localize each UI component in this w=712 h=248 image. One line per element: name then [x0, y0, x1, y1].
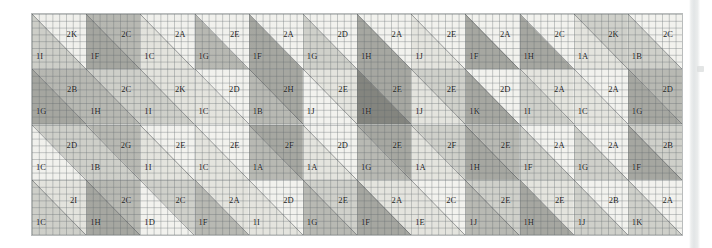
quilt-cell: 2A1C — [574, 69, 628, 124]
cell-lower-label: 1C — [578, 107, 588, 116]
cell-lower-label: 1G — [307, 52, 318, 61]
quilt-cell: 2B1J — [574, 180, 628, 235]
cell-upper-label: 2F — [285, 141, 294, 150]
cell-upper-label: 2C — [121, 196, 131, 205]
quilt-layout-grid: 2K1I2C1F2A1C2E1G2A1F2D1G2A1H2E1J2A1F2C1H… — [31, 13, 683, 236]
cell-lower-label: 1H — [524, 52, 535, 61]
quilt-cell: 2A1F — [249, 14, 303, 69]
quilt-cell: 2D1I — [249, 180, 303, 235]
quilt-cell: 2F1A — [411, 125, 465, 180]
cell-upper-label: 2C — [175, 196, 185, 205]
cell-upper-label: 2I — [70, 196, 77, 205]
cell-lower-label: 1A — [415, 163, 426, 172]
cell-upper-label: 2D — [229, 85, 240, 94]
cell-upper-label: 2A — [283, 30, 294, 39]
cell-upper-label: 2D — [283, 196, 294, 205]
cell-upper-label: 2C — [555, 30, 565, 39]
cell-upper-label: 2E — [338, 85, 348, 94]
quilt-cell: 2A1C — [140, 14, 194, 69]
quilt-cell: 2C1B — [628, 14, 682, 69]
cell-lower-label: 1K — [632, 218, 643, 227]
quilt-cell: 2E1H — [465, 125, 519, 180]
cell-lower-label: 1F — [524, 163, 533, 172]
quilt-cell: 2B1F — [628, 125, 682, 180]
quilt-cell: 2D1G — [628, 69, 682, 124]
quilt-cell: 2D1G — [303, 14, 357, 69]
cell-lower-label: 1I — [144, 107, 151, 116]
cell-lower-label: 1G — [307, 218, 318, 227]
cell-lower-label: 1G — [632, 107, 643, 116]
quilt-cell: 2C1E — [411, 180, 465, 235]
cell-upper-label: 2E — [176, 141, 186, 150]
cell-upper-label: 2E — [501, 141, 511, 150]
cell-upper-label: 2A — [392, 196, 403, 205]
quilt-cell: 2E1G — [303, 180, 357, 235]
cell-upper-label: 2A — [662, 196, 673, 205]
cell-lower-label: 1C — [199, 107, 209, 116]
quilt-cell: 2K1A — [574, 14, 628, 69]
cell-lower-label: 1H — [90, 218, 101, 227]
quilt-cell: 2E1H — [357, 69, 411, 124]
cell-lower-label: 1H — [361, 107, 372, 116]
cell-lower-label: 1D — [144, 218, 155, 227]
cell-lower-label: 1J — [307, 107, 315, 116]
cell-lower-label: 1C — [36, 218, 46, 227]
quilt-cell: 2E1G — [195, 14, 249, 69]
quilt-cell: 2C1F — [86, 14, 140, 69]
cell-lower-label: 1F — [90, 52, 99, 61]
quilt-cell: 2E1J — [411, 69, 465, 124]
cell-upper-label: 2B — [67, 85, 77, 94]
cell-lower-label: 1I — [524, 107, 531, 116]
cell-upper-label: 2C — [446, 196, 456, 205]
cell-upper-label: 2E — [555, 196, 565, 205]
quilt-cell: 2H1B — [249, 69, 303, 124]
quilt-cell: 2A1K — [628, 180, 682, 235]
cell-upper-label: 2H — [283, 85, 294, 94]
cell-lower-label: 1A — [578, 52, 589, 61]
quilt-cell: 2A1G — [574, 125, 628, 180]
cell-upper-label: 2A — [608, 141, 619, 150]
quilt-cell: 2C1H — [520, 14, 574, 69]
quilt-cell: 2F1A — [249, 125, 303, 180]
cell-upper-label: 2E — [501, 196, 511, 205]
cell-upper-label: 2K — [175, 85, 186, 94]
cell-lower-label: 1A — [253, 163, 264, 172]
page-edge-band — [689, 0, 700, 248]
cell-lower-label: 1H — [90, 107, 101, 116]
quilt-cell: 2K1I — [32, 14, 86, 69]
quilt-cell: 2D1C — [32, 125, 86, 180]
cell-upper-label: 2E — [393, 141, 403, 150]
cell-lower-label: 1C — [36, 163, 46, 172]
quilt-cell: 2E1J — [303, 69, 357, 124]
cell-upper-label: 2D — [662, 85, 673, 94]
cell-lower-label: 1F — [253, 52, 262, 61]
quilt-cell: 2A1H — [357, 14, 411, 69]
quilt-cell: 2A1I — [520, 69, 574, 124]
cell-upper-label: 2A — [608, 85, 619, 94]
quilt-cell: 2B1G — [32, 69, 86, 124]
quilt-cell: 2I1C — [32, 180, 86, 235]
quilt-cell: 2E1J — [465, 180, 519, 235]
cell-lower-label: 1G — [36, 107, 47, 116]
cell-lower-label: 1H — [469, 163, 480, 172]
cell-lower-label: 1G — [361, 163, 372, 172]
cell-upper-label: 2A — [554, 141, 565, 150]
cell-lower-label: 1I — [253, 218, 260, 227]
cell-lower-label: 1G — [578, 163, 589, 172]
quilt-cell: 2E1C — [195, 125, 249, 180]
cell-upper-label: 2D — [337, 30, 348, 39]
cell-lower-label: 1G — [199, 52, 210, 61]
quilt-cell: 2A1F — [465, 14, 519, 69]
cell-lower-label: 1F — [469, 52, 478, 61]
quilt-cell: 2E1G — [357, 125, 411, 180]
cell-lower-label: 1B — [253, 107, 263, 116]
cell-lower-label: 1F — [632, 163, 641, 172]
cell-lower-label: 1B — [632, 52, 642, 61]
cell-upper-label: 2E — [447, 30, 457, 39]
quilt-cell: 2K1I — [140, 69, 194, 124]
cell-upper-label: 2A — [500, 30, 511, 39]
cell-upper-label: 2B — [663, 141, 673, 150]
cell-lower-label: 1K — [469, 107, 480, 116]
quilt-cell: 2C1H — [86, 180, 140, 235]
cell-lower-label: 1J — [578, 218, 586, 227]
